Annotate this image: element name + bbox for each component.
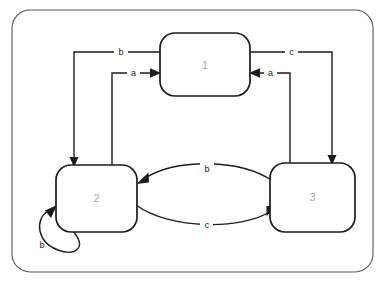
transition-label-b-self-loop: b xyxy=(39,240,44,250)
state-diagram-canvas: b a c a b xyxy=(0,0,386,283)
state-node-3[interactable]: 3 xyxy=(270,163,355,232)
state-node-3-label: 3 xyxy=(309,191,315,203)
transition-label-a-3-1: a xyxy=(268,68,273,78)
transition-label-b-1-2: b xyxy=(118,47,123,57)
state-node-1-label: 1 xyxy=(202,59,208,71)
state-node-1[interactable]: 1 xyxy=(160,33,250,96)
transition-label-c-1-3: c xyxy=(289,47,294,57)
transition-label-a-2-1: a xyxy=(131,68,136,78)
state-node-2[interactable]: 2 xyxy=(56,165,137,232)
state-diagram-container: b a c a b xyxy=(0,0,386,283)
state-node-2-label: 2 xyxy=(93,192,99,204)
transition-label-b-3-2: b xyxy=(204,164,209,174)
transition-label-c-2-3: c xyxy=(205,220,210,230)
